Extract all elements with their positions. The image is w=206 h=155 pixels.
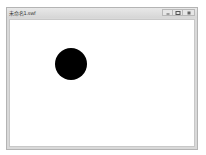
- window-controls: [163, 9, 195, 16]
- title-bar[interactable]: 未命名1.swf: [7, 8, 197, 18]
- close-button[interactable]: [182, 9, 195, 16]
- app-window: 未命名1.swf: [6, 7, 198, 150]
- flash-stage[interactable]: [9, 19, 195, 147]
- maximize-icon: [175, 11, 180, 15]
- window-title: 未命名1.swf: [9, 9, 36, 17]
- close-icon: [187, 11, 190, 14]
- minimize-icon: [166, 13, 169, 14]
- black-circle: [55, 48, 87, 80]
